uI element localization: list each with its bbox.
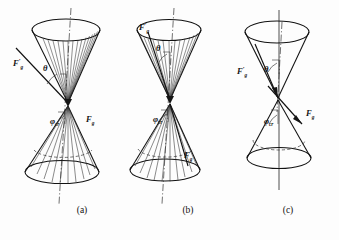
upper-cone-rim-c: [245, 21, 309, 43]
theta-arc-c: [268, 63, 277, 72]
label-fg-prime-a: F′g: [12, 57, 24, 70]
label-theta-c: θ: [264, 64, 269, 74]
caption-panel-a: (a): [62, 205, 102, 215]
panel-a: F′g θ Fg φcr: [0, 0, 120, 212]
axis-b: [162, 8, 174, 204]
vector-fg-prime-a: [16, 48, 68, 103]
label-theta-a: θ: [43, 63, 48, 73]
label-fg-c: Fg: [305, 108, 315, 120]
lower-cone-rim-b: [130, 159, 200, 181]
upper-cone-generatrices-a: [43, 32, 98, 104]
theta-arc-b: [159, 54, 167, 62]
caption-panel-c: (c): [268, 205, 308, 215]
figure-root: F′g θ Fg φcr: [0, 0, 339, 240]
label-phi-a: φcr: [50, 116, 60, 127]
upper-cone-rim-a: [32, 19, 100, 41]
caption-row: (a) (b) (c): [0, 205, 339, 229]
label-fg-prime-c: F′g: [236, 65, 248, 78]
label-fg-a: Fg: [85, 114, 95, 126]
label-fg-prime-b: F′g: [138, 21, 150, 34]
label-phi-b: φcr: [153, 114, 163, 125]
apex-node-b: [166, 96, 174, 104]
caption-panel-b: (b): [168, 205, 208, 215]
vector-fg-arrowhead-c: [293, 115, 302, 124]
label-theta-b: θ: [156, 43, 161, 53]
panel-b: F′g θ Fg φcr: [112, 0, 224, 212]
label-phi-c: φcr: [264, 116, 274, 127]
panel-c: F′g θ Fg φcr: [222, 0, 339, 212]
upper-cone-generatrices-b: [140, 33, 198, 100]
